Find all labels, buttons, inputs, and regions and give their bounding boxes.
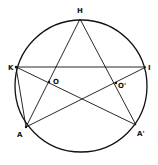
segment-A-I bbox=[26, 67, 146, 127]
point-O bbox=[48, 81, 50, 83]
segments bbox=[16, 19, 146, 127]
point-K bbox=[15, 66, 17, 68]
label-A: A bbox=[17, 131, 23, 139]
segment-K-A bbox=[16, 67, 26, 127]
segment-H-A' bbox=[80, 19, 136, 125]
label-A': A' bbox=[137, 130, 145, 138]
label-K: K bbox=[8, 64, 14, 72]
label-O': O' bbox=[118, 82, 126, 90]
label-O: O bbox=[53, 78, 59, 86]
segment-H-A bbox=[26, 19, 80, 127]
segment-K-A' bbox=[16, 67, 136, 125]
label-H: H bbox=[77, 7, 83, 15]
geometry-diagram: HKIAA'OO' bbox=[0, 0, 158, 165]
point-A bbox=[25, 126, 27, 128]
point-O' bbox=[115, 82, 117, 84]
circumcircle bbox=[15, 20, 147, 152]
label-I: I bbox=[148, 64, 151, 72]
